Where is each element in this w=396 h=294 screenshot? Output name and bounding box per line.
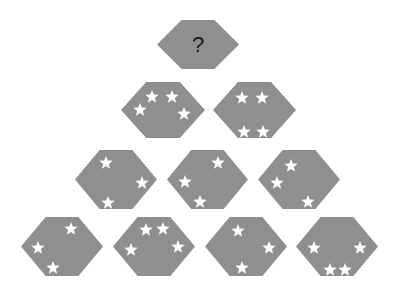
hexagon-shape: [113, 217, 195, 276]
question-mark-label: ?: [157, 20, 239, 69]
hexagon-shape: [121, 82, 205, 138]
hexagon-shape: [205, 217, 287, 276]
hexagon-shape: [75, 150, 157, 209]
hexagon-r3-c3: [258, 150, 340, 209]
hexagon-r3-c2: [167, 150, 248, 209]
hexagon-star-puzzle: ?: [0, 0, 396, 294]
hexagon-r3-c1: [75, 150, 157, 209]
hexagon-shape: [21, 217, 103, 276]
hexagon-r4-c4: [296, 217, 378, 276]
hexagon-r4-c3: [205, 217, 287, 276]
hexagon-r2-c1: [121, 82, 205, 138]
hexagon-shape: [258, 150, 340, 209]
hexagon-r4-c1: [21, 217, 103, 276]
hexagon-r1-c1: ?: [157, 20, 239, 69]
hexagon-r2-c2: [213, 82, 296, 138]
hexagon-shape: [167, 150, 248, 209]
hexagon-r4-c2: [113, 217, 195, 276]
hexagon-shape: [296, 217, 378, 276]
hexagon-shape: [213, 82, 296, 138]
